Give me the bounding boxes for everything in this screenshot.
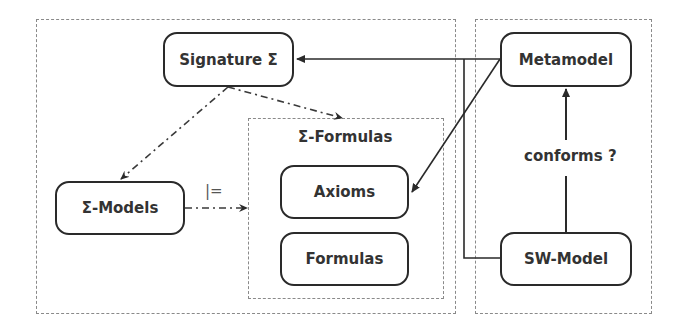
- axioms-label: Axioms: [314, 183, 375, 201]
- axioms-node[interactable]: Axioms: [280, 165, 409, 219]
- edge-metamodel-axioms: [412, 59, 500, 192]
- metamodel-label: Metamodel: [519, 51, 613, 69]
- sw-model-label: SW-Model: [524, 250, 608, 268]
- edge-swmodel-signature: [464, 59, 500, 258]
- formulas-label: Formulas: [306, 250, 384, 268]
- models-node[interactable]: Σ-Models: [55, 181, 185, 235]
- satisfies-label: |=: [205, 182, 223, 200]
- signature-node[interactable]: Signature Σ: [163, 32, 294, 87]
- edge-signature-models: [121, 87, 228, 179]
- formulas-node[interactable]: Formulas: [280, 232, 409, 286]
- conforms-label: conforms ?: [524, 147, 617, 165]
- metamodel-node[interactable]: Metamodel: [500, 32, 632, 87]
- sw-model-node[interactable]: SW-Model: [500, 232, 632, 286]
- edge-signature-formulas: [228, 87, 342, 118]
- models-label: Σ-Models: [82, 199, 159, 217]
- signature-label: Signature Σ: [179, 51, 277, 69]
- formulas-group-title: Σ-Formulas: [298, 128, 392, 146]
